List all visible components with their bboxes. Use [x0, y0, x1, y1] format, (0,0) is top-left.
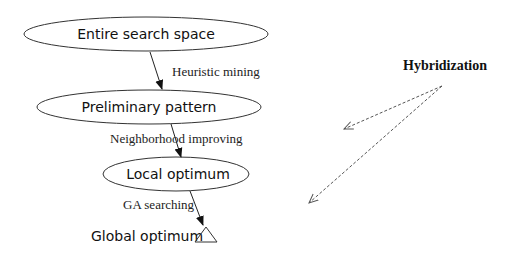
node-entire-search-space: Entire search space — [24, 17, 268, 51]
node-label: Global optimum — [91, 228, 203, 244]
node-label: Local optimum — [126, 166, 230, 182]
edge-neighborhood-improving: Neighborhood improving — [110, 124, 243, 157]
edge-ga-searching: GA searching — [123, 191, 203, 225]
node-local-optimum: Local optimum — [103, 157, 249, 191]
edge-label: GA searching — [123, 197, 195, 212]
edge-label: Heuristic mining — [172, 64, 260, 79]
node-preliminary-pattern: Preliminary pattern — [37, 90, 261, 124]
hybridization-annotation: Hybridization — [309, 58, 487, 203]
hybridization-label: Hybridization — [403, 58, 487, 73]
dashed-arrow-icon — [344, 86, 442, 129]
search-process-diagram: Entire search space Heuristic mining Pre… — [0, 0, 509, 261]
node-label: Entire search space — [77, 26, 215, 42]
node-global-optimum: Global optimum — [91, 227, 217, 244]
node-label: Preliminary pattern — [82, 99, 217, 115]
dashed-arrow-icon — [309, 86, 442, 203]
edge-heuristic-mining: Heuristic mining — [150, 52, 260, 89]
arrow-icon — [150, 52, 162, 89]
edge-label: Neighborhood improving — [110, 131, 243, 146]
